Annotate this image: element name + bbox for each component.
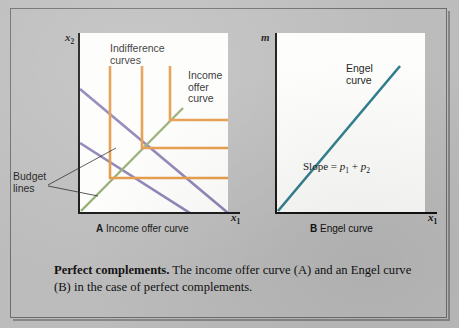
engel-curve-line [278,66,400,211]
budget-line-low [80,143,204,222]
figure-container: x2 x1 [0,0,459,328]
slope-plus: + [349,160,361,172]
panel-a-caption-text: Income offer curve [106,223,189,234]
slope-p2-sub: 2 [366,166,370,175]
panel-a-curves [0,0,250,240]
panel-a-caption: A Income offer curve [96,223,189,234]
budget-lines-leader-upper [48,148,116,185]
indifference-curves-label: Indifference curves [110,43,185,66]
panel-a-caption-letter: A [96,223,103,234]
income-offer-curve-label: Income offer curve [188,70,240,105]
engel-curve-label: Engel curve [346,63,396,86]
figure-caption-lead: Perfect complements. [54,263,169,277]
panel-a: x2 x1 [0,0,250,240]
slope-prefix: Slope = [303,160,340,172]
panel-b-caption: B Engel curve [310,223,373,234]
panel-b: m x1 Engel curve Slope = p1 + p2 B Engel… [248,0,459,240]
panel-b-caption-letter: B [310,223,317,234]
panel-b-caption-text: Engel curve [320,223,373,234]
engel-slope-annotation: Slope = p1 + p2 [303,160,370,175]
budget-lines-label: Budget lines [13,171,55,194]
budget-lines-leader-lower [48,186,98,196]
panel-b-curves [248,0,459,240]
budget-line-high [80,89,234,218]
figure-caption: Perfect complements. The income offer cu… [54,262,414,296]
